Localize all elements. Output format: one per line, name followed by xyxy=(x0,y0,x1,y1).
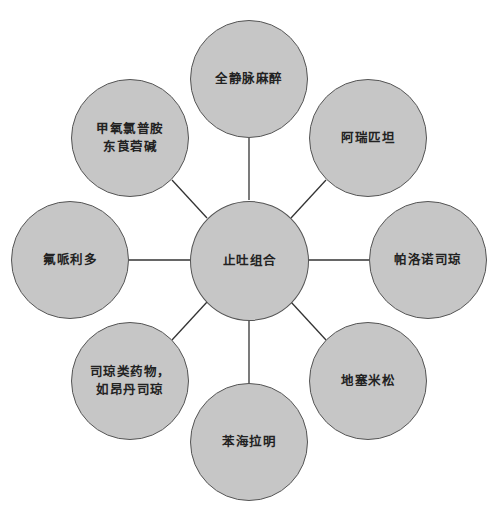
connector-upper-left xyxy=(172,180,207,218)
node-upper-left: 甲氧氯普胺 东莨菪碱 xyxy=(71,79,189,197)
node-label-right: 帕洛诺司琼 xyxy=(394,251,462,269)
node-label-lower-right: 地塞米松 xyxy=(341,372,395,390)
antiemetic-combination-diagram: 止吐组合 全静脉麻醉 阿瑞匹坦 帕洛诺司琼 地塞米松 苯海拉明 司琼类药物， 如… xyxy=(0,0,495,516)
node-label-lower-left: 司琼类药物， 如昂丹司琼 xyxy=(90,363,171,399)
node-label-upper-left: 甲氧氯普胺 东莨菪碱 xyxy=(96,120,164,156)
node-top: 全静脉麻醉 xyxy=(190,20,308,138)
node-label-top: 全静脉麻醉 xyxy=(215,70,283,88)
center-label: 止吐组合 xyxy=(223,252,277,270)
node-center: 止吐组合 xyxy=(190,201,309,321)
node-left: 氟哌利多 xyxy=(11,201,129,319)
node-label-bottom: 苯海拉明 xyxy=(222,433,276,451)
connector-lower-left xyxy=(172,302,207,340)
node-lower-right: 地塞米松 xyxy=(309,322,427,440)
node-bottom: 苯海拉明 xyxy=(190,383,308,501)
node-label-left: 氟哌利多 xyxy=(43,251,97,269)
node-label-upper-right: 阿瑞匹坦 xyxy=(341,129,395,147)
connector-lower-right xyxy=(291,302,326,340)
connector-upper-right xyxy=(291,180,326,218)
node-upper-right: 阿瑞匹坦 xyxy=(309,79,427,197)
node-lower-left: 司琼类药物， 如昂丹司琼 xyxy=(71,322,189,440)
node-right: 帕洛诺司琼 xyxy=(369,201,487,319)
